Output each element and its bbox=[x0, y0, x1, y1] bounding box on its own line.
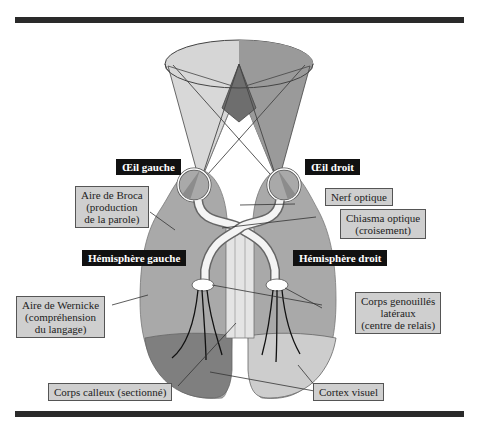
corpus-callosum-label: Corps calleux (sectionné) bbox=[48, 383, 172, 401]
left-eye-label: Œil gauche bbox=[116, 159, 181, 175]
broca-label: Aire de Broca (production de la parole) bbox=[75, 186, 149, 228]
wernicke-label: Aire de Wernicke (compréhension du langa… bbox=[16, 296, 105, 338]
visual-field bbox=[165, 40, 313, 183]
left-lgn bbox=[192, 279, 214, 291]
left-hemisphere bbox=[140, 169, 232, 398]
left-hemisphere-label: Hémisphère gauche bbox=[82, 250, 186, 266]
corpus-callosum bbox=[226, 228, 254, 338]
optic-chiasm-label: Chiasma optique (croisement) bbox=[340, 209, 426, 239]
visual-cortex-label: Cortex visuel bbox=[313, 383, 384, 401]
optic-nerve-label: Nerf optique bbox=[325, 188, 393, 206]
right-eye-label: Œil droit bbox=[305, 159, 360, 175]
right-hemisphere bbox=[248, 169, 336, 398]
lgn-label: Corps genouillés latéraux (centre de rel… bbox=[355, 292, 441, 334]
right-lgn bbox=[266, 279, 288, 291]
right-hemisphere-label: Hémisphère droit bbox=[293, 250, 387, 266]
